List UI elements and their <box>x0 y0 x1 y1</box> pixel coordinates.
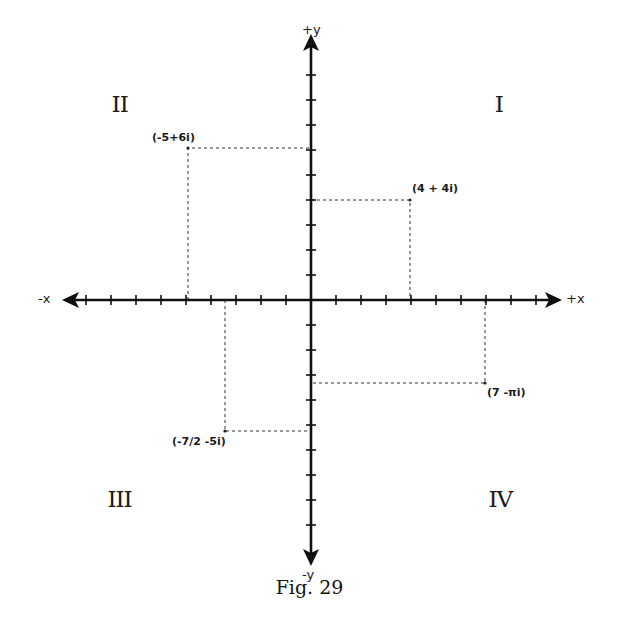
point-4-4i <box>408 198 411 201</box>
quadrant-label-IV: IV <box>488 487 512 512</box>
point-label-neg3.5-neg5i: (-7/2 -5i) <box>172 435 226 448</box>
pos-y-label: +y <box>302 22 321 37</box>
point-label-neg5-pos6i: (-5+6i) <box>152 131 195 144</box>
projection-4-4i <box>311 200 410 300</box>
projection-neg5-pos6i <box>188 148 311 300</box>
quadrant-label-I: I <box>495 92 503 117</box>
projection-neg3.5-neg5i <box>225 300 311 431</box>
quadrant-label-III: III <box>107 487 131 512</box>
pos-x-label: +x <box>566 291 585 306</box>
point-7-negpii <box>483 381 486 384</box>
point-label-4-4i: (4 + 4i) <box>412 182 458 195</box>
axes <box>68 40 556 560</box>
figure-caption: Fig. 29 <box>0 576 619 598</box>
point-label-7-negpii: (7 -πi) <box>487 386 526 399</box>
point-neg3.5-neg5i <box>223 429 226 432</box>
argand-diagram <box>0 0 619 632</box>
quadrant-label-II: II <box>112 92 128 117</box>
point-neg5-pos6i <box>186 146 189 149</box>
neg-x-label: -x <box>38 291 50 306</box>
projection-7-negpii <box>311 300 485 383</box>
